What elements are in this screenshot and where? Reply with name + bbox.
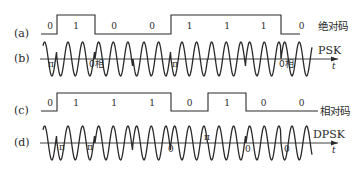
absolute-code-waveform: 01001110绝对码	[41, 15, 348, 34]
phase-label: 0相	[89, 58, 104, 69]
phase-label: 0	[168, 144, 174, 154]
bit-label: 0	[149, 21, 155, 31]
bit-label: 1	[73, 98, 79, 108]
phase-label: π	[172, 59, 178, 69]
bit-label: 1	[224, 98, 230, 108]
psk-dpsk-diagram: (a)(b)(c)(d) 01001110绝对码 π0相π0相PSKt 0111…	[0, 0, 359, 174]
phase-label: π	[87, 142, 93, 152]
row-label-b: (b)	[14, 52, 30, 65]
phase-label: 0	[284, 144, 290, 154]
bit-label: 0	[111, 21, 117, 31]
row-label-c: (c)	[14, 104, 29, 117]
bit-label: 0	[261, 98, 267, 108]
bit-label: 1	[111, 98, 117, 108]
time-axis-label: t	[332, 145, 336, 155]
bit-label: 0	[47, 21, 53, 31]
phase-label: 0相	[279, 58, 294, 69]
bit-label: 0	[187, 98, 193, 108]
bit-label: 0	[299, 98, 305, 108]
row-name-d: DPSK	[313, 128, 346, 141]
phase-label: π	[48, 59, 54, 69]
relative-code-waveform: 01110100相对码	[41, 93, 350, 117]
bit-label: 1	[187, 21, 193, 31]
bit-label: 0	[299, 21, 305, 31]
bit-label: 1	[73, 21, 79, 31]
row-label-a: (a)	[14, 27, 29, 40]
row-label-d: (d)	[14, 136, 30, 149]
bit-label: 1	[224, 21, 230, 31]
row-name-c: 相对码	[320, 105, 350, 117]
bit-label: 1	[261, 21, 267, 31]
time-axis-label: t	[332, 61, 336, 71]
phase-label: 0	[245, 144, 251, 154]
phase-label: π	[204, 132, 210, 142]
bit-label: 1	[149, 98, 155, 108]
psk-waveform: π0相π0相PSKt	[40, 42, 342, 76]
row-name-b: PSK	[318, 44, 342, 57]
row-name-a: 绝对码	[318, 20, 348, 32]
phase-label: π	[59, 142, 65, 152]
bit-label: 0	[47, 98, 53, 108]
dpsk-waveform: ππ0π00DPSKt	[40, 126, 346, 160]
